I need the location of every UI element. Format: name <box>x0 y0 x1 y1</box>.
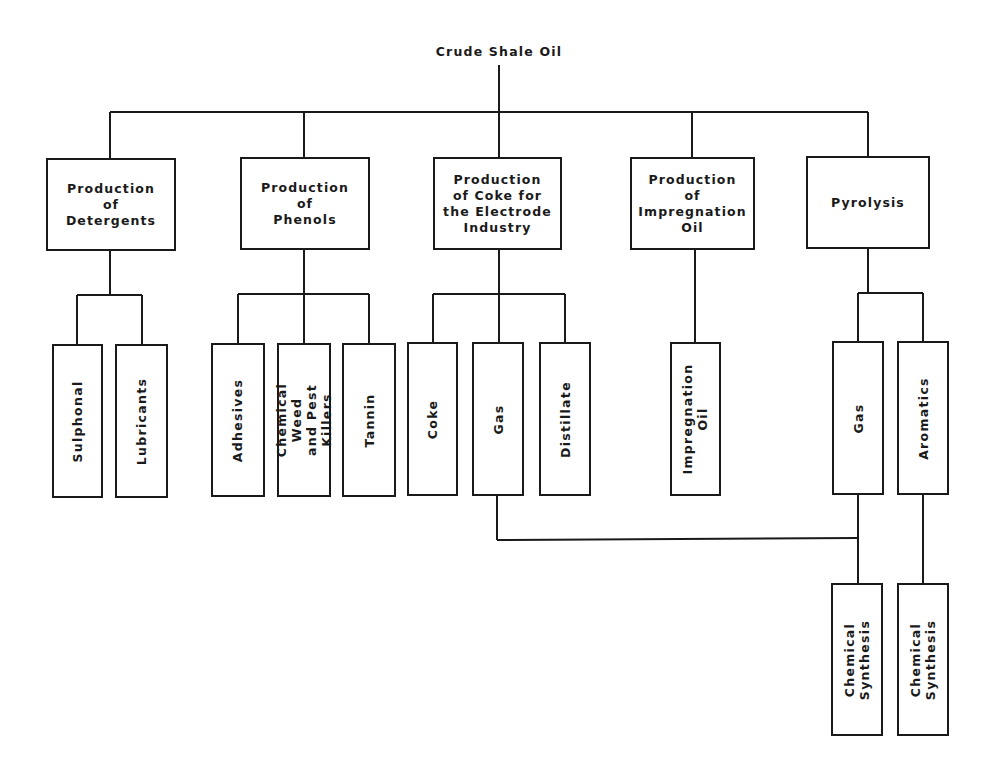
product-label: Gas <box>850 403 865 433</box>
product-box-gas-pyrolysis: Gas <box>832 341 884 495</box>
process-box-detergents: Production of Detergents <box>46 158 176 251</box>
process-label: Pyrolysis <box>831 195 905 211</box>
product-box-impregnation-oil: Impregnation Oil <box>670 342 721 496</box>
process-label: Production of Phenols <box>261 180 349 228</box>
product-box-tannin: Tannin <box>342 343 396 497</box>
downstream-label: Chemical Synthesis <box>908 619 938 699</box>
product-label: Lubricants <box>134 377 149 464</box>
product-label: Tannin <box>362 393 377 447</box>
product-label: Chemical Weed and Pest Killers <box>274 383 334 457</box>
product-box-gas-coke: Gas <box>472 342 524 496</box>
product-label: Coke <box>425 399 440 438</box>
product-box-chemical-weed-pest-killers: Chemical Weed and Pest Killers <box>277 343 331 497</box>
product-label: Adhesives <box>231 378 246 462</box>
process-box-pyrolysis: Pyrolysis <box>806 156 930 249</box>
product-label: Impregnation Oil <box>681 364 711 475</box>
product-label: Aromatics <box>916 377 931 460</box>
product-box-coke: Coke <box>407 342 458 496</box>
product-label: Sulphonal <box>70 380 85 462</box>
process-label: Production of Detergents <box>66 181 156 229</box>
process-box-coke: Production of Coke for the Electrode Ind… <box>433 157 562 250</box>
downstream-box-chemical-synthesis-gas: Chemical Synthesis <box>831 583 883 736</box>
product-label: Distillate <box>558 381 573 458</box>
process-label: Production of Coke for the Electrode Ind… <box>443 172 552 236</box>
process-box-phenols: Production of Phenols <box>240 157 370 250</box>
root-node-crude-shale-oil: Crude Shale Oil <box>399 44 599 59</box>
product-box-lubricants: Lubricants <box>115 344 168 498</box>
process-label: Production of Impregnation Oil <box>638 172 747 236</box>
product-box-distillate: Distillate <box>539 342 591 496</box>
process-box-impregnation: Production of Impregnation Oil <box>630 157 755 250</box>
product-box-adhesives: Adhesives <box>211 343 265 497</box>
downstream-label: Chemical Synthesis <box>842 619 872 699</box>
downstream-box-chemical-synthesis-aromatics: Chemical Synthesis <box>897 583 949 736</box>
product-box-aromatics: Aromatics <box>897 341 949 495</box>
product-label: Gas <box>490 404 505 434</box>
product-box-sulphonal: Sulphonal <box>52 344 103 498</box>
